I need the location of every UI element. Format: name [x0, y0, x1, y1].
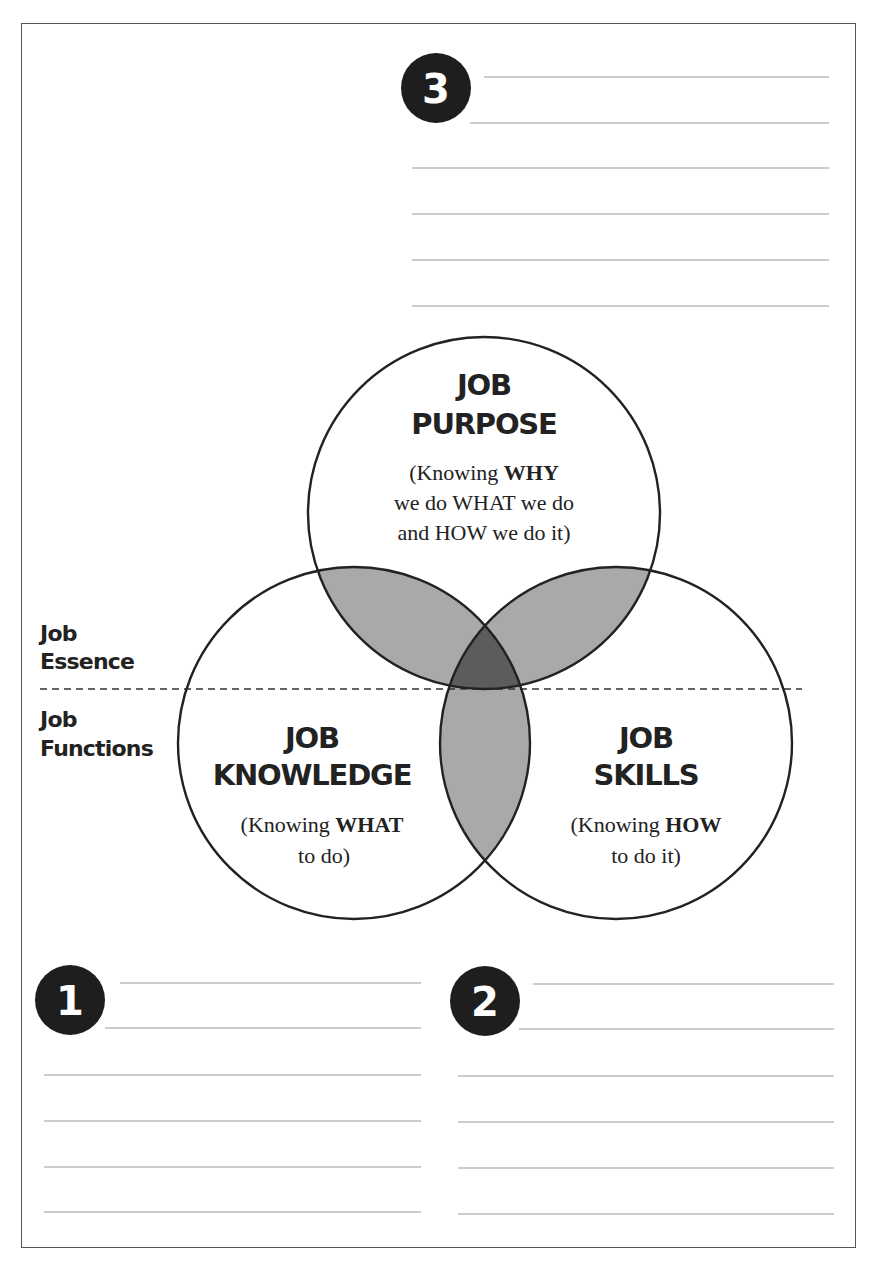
section-3: 3 [401, 53, 829, 306]
knowledge-title-line1: JOB [283, 721, 339, 755]
skills-label: JOB SKILLS (Knowing HOW to do it) [571, 721, 722, 868]
knowledge-label: JOB KNOWLEDGE (Knowing WHAT to do) [213, 721, 412, 868]
purpose-desc-line1: (Knowing WHY [409, 460, 559, 485]
skills-desc-emphasis: HOW [665, 812, 721, 837]
skills-desc-line1: (Knowing HOW [571, 812, 722, 837]
badge-number: 2 [471, 979, 499, 1025]
venn-worksheet: 3 JOB PURPOSE [0, 0, 874, 1261]
skills-desc-line2: to do it) [611, 843, 681, 868]
purpose-desc-prefix: (Knowing [409, 460, 504, 485]
badge-1: 1 [35, 965, 105, 1035]
purpose-title-line2: PURPOSE [411, 407, 556, 441]
knowledge-desc-emphasis: WHAT [335, 812, 403, 837]
essence-label-line2: Essence [40, 649, 134, 674]
skills-title-line1: JOB [617, 721, 673, 755]
overlap-regions [178, 567, 792, 919]
skills-desc-prefix: (Knowing [571, 812, 666, 837]
knowledge-title-line2: KNOWLEDGE [213, 758, 412, 792]
purpose-desc-line3: and HOW we do it) [397, 520, 570, 545]
section-1: 1 [35, 965, 421, 1212]
section-2: 2 [450, 966, 834, 1214]
purpose-desc-emphasis: WHY [504, 460, 559, 485]
badge-number: 3 [422, 66, 450, 112]
badge-3: 3 [401, 53, 471, 123]
functions-label-line2: Functions [40, 736, 154, 761]
purpose-desc-line2: we do WHAT we do [394, 490, 574, 515]
purpose-label: JOB PURPOSE (Knowing WHY we do WHAT we d… [394, 368, 574, 545]
badge-2: 2 [450, 966, 520, 1036]
essence-label-line1: Job [38, 621, 77, 646]
badge-number: 1 [56, 978, 84, 1024]
knowledge-desc-line2: to do) [298, 843, 350, 868]
purpose-title-line1: JOB [455, 368, 511, 402]
functions-label-line1: Job [38, 707, 77, 732]
knowledge-desc-line1: (Knowing WHAT [241, 812, 404, 837]
side-labels: Job Essence Job Functions [38, 621, 154, 761]
knowledge-desc-prefix: (Knowing [241, 812, 336, 837]
skills-title-line2: SKILLS [594, 758, 699, 792]
